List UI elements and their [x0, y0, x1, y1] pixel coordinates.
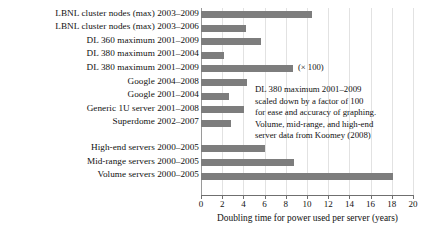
- category-label: Superdome 2002–2007: [113, 117, 199, 126]
- x-tick-label: 6: [255, 200, 275, 209]
- x-tick-label: 16: [361, 200, 381, 209]
- bar: [201, 106, 244, 113]
- category-label: Google 2001–2004: [128, 90, 200, 99]
- category-axis-labels: LBNL cluster nodes (max) 2003–2009LBNL c…: [0, 0, 199, 195]
- gridline: [201, 8, 202, 195]
- bar: [201, 159, 294, 166]
- note-line: Volume, mid-range, and high-end: [255, 119, 425, 131]
- category-label: High-end servers 2000–2005: [91, 143, 199, 152]
- category-label: Google 2004–2008: [128, 77, 200, 86]
- bar: [201, 93, 229, 100]
- category-label: DL 380 maximum 2001–2009: [87, 63, 199, 72]
- x-tick-label: 8: [276, 200, 296, 209]
- x-tick-label: 10: [297, 200, 317, 209]
- category-label: DL 360 maximum 2001–2009: [87, 36, 199, 45]
- note-line: server data from Koomey (2008): [255, 130, 425, 142]
- note-line: scaled down by a factor of 100: [255, 96, 425, 108]
- category-label: DL 380 maximum 2001–2004: [87, 49, 199, 58]
- x-tick-label: 4: [233, 200, 253, 209]
- x-axis-title: Doubling time for power used per server …: [201, 213, 414, 223]
- bar-chart: LBNL cluster nodes (max) 2003–2009LBNL c…: [0, 0, 426, 238]
- category-label: Mid-range servers 2000–2005: [87, 157, 199, 166]
- bar: [201, 25, 246, 32]
- gridline: [243, 8, 244, 195]
- x-tick-label: 18: [382, 200, 402, 209]
- x-tick-label: 20: [403, 200, 423, 209]
- bar: [201, 120, 231, 127]
- gridline: [222, 8, 223, 195]
- x-tick-label: 12: [318, 200, 338, 209]
- bar: [201, 65, 293, 72]
- bar: [201, 79, 247, 86]
- category-label: Volume servers 2000–2005: [97, 170, 199, 179]
- bar: [201, 52, 224, 59]
- note-annotation: DL 380 maximum 2001–2009scaled down by a…: [255, 84, 425, 142]
- category-label: LBNL cluster nodes (max) 2003–2006: [55, 22, 199, 31]
- x-tick-label: 2: [212, 200, 232, 209]
- category-label: Generic 1U server 2001–2008: [87, 104, 199, 113]
- bar: [201, 173, 393, 180]
- bar: [201, 145, 265, 152]
- bar: [201, 11, 312, 18]
- bar: [201, 38, 261, 45]
- x-tick-label: 0: [191, 200, 211, 209]
- x-tick-label: 14: [339, 200, 359, 209]
- multiplier-annotation: (× 100): [298, 63, 324, 72]
- note-line: DL 380 maximum 2001–2009: [255, 84, 425, 96]
- category-label: LBNL cluster nodes (max) 2003–2009: [55, 9, 199, 18]
- note-line: for ease and accuracy of graphing.: [255, 107, 425, 119]
